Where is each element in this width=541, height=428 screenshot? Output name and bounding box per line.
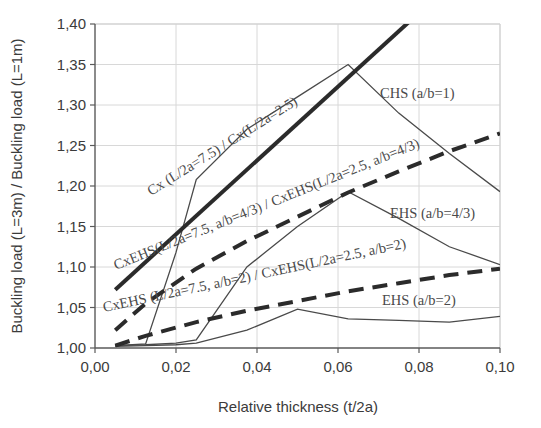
x-tick-label: 0,10 bbox=[485, 358, 514, 375]
y-tick-label: 1,35 bbox=[57, 56, 86, 73]
x-tick-label: 0,02 bbox=[161, 358, 190, 375]
y-tick-label: 1,40 bbox=[57, 15, 86, 32]
x-tick-label: 0,08 bbox=[404, 358, 433, 375]
chart-figure: 1,001,051,101,151,201,251,301,351,400,00… bbox=[0, 0, 541, 428]
x-axis-title: Relative thickness (t/2a) bbox=[218, 398, 378, 415]
ehs43-label: EHS (a/b=4/3) bbox=[390, 205, 475, 222]
x-tick-label: 0,06 bbox=[323, 358, 352, 375]
x-tick-label: 0,04 bbox=[242, 358, 271, 375]
y-tick-label: 1,30 bbox=[57, 96, 86, 113]
y-tick-label: 1,00 bbox=[57, 339, 86, 356]
y-tick-label: 1,05 bbox=[57, 299, 86, 316]
y-tick-label: 1,25 bbox=[57, 137, 86, 154]
y-tick-label: 1,20 bbox=[57, 177, 86, 194]
y-tick-label: 1,15 bbox=[57, 218, 86, 235]
y-tick-label: 1,10 bbox=[57, 258, 86, 275]
buckling-load-ratio-chart: 1,001,051,101,151,201,251,301,351,400,00… bbox=[0, 0, 541, 428]
x-tick-label: 0,00 bbox=[80, 358, 109, 375]
chs-label: CHS (a/b=1) bbox=[380, 85, 455, 102]
y-axis-title: Buckling load (L=3m) / Buckling load (L=… bbox=[8, 38, 25, 333]
ehs2-label: EHS (a/b=2) bbox=[382, 292, 456, 309]
